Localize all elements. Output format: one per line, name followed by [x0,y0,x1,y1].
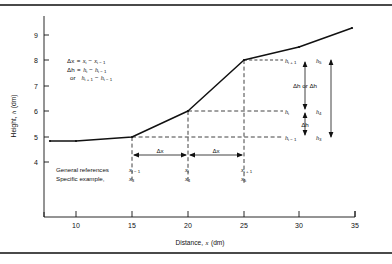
construction-lines-group [132,60,283,183]
y-tick-label-6: 6 [34,108,38,115]
h-im1-label: hi − 1 [285,134,297,142]
data-point [131,136,133,138]
delta-x-right-label: Δx [212,147,220,154]
x-tick-label-25: 25 [240,222,248,229]
y-tick-label-4: 4 [34,159,38,166]
specific-example-label: Specific example, [56,175,105,182]
x3-example: x3 [128,175,135,183]
delta-h-upper-arrow-top [303,61,308,67]
x-tick-label-35: 35 [351,222,359,229]
x-tick-label-10: 10 [72,222,80,229]
y-tick-label-7: 7 [34,83,38,90]
x5-example: x5 [240,175,247,183]
y-tick-label-9: 9 [34,32,38,39]
delta-x-right-arrow-start [189,153,195,158]
h-ip1-label: hi + 1 [285,57,297,65]
h5-arrow-top [329,59,334,65]
chart-svg: 10 15 20 25 30 35 4 5 6 7 8 9 Distance,x… [0,0,392,264]
reference-rows-group: General references Specific example, xi … [56,166,253,183]
delta-h-lower-label: Δh [301,121,309,128]
x-im1-reference: xi − 1 [128,166,141,174]
delta-x-left-arrow-start [133,153,139,158]
h4-label: h4 [316,108,322,116]
h5-label: h5 [316,57,322,65]
delta-h-upper-label: Δh or Δh [293,82,318,89]
y-tick-label-8: 8 [34,57,38,64]
delta-h-inner-dimensions-group: Δh or Δh Δh [293,61,318,136]
y-ticks-group: 4 5 6 7 8 9 [34,32,49,166]
delta-h-lower-arrow-bottom [303,130,308,136]
formula-line-2: Δh=hi−hi − 1 [67,66,107,74]
data-point [351,27,353,29]
general-references-label: General references [56,166,109,173]
data-point [243,59,245,61]
formula-annotation-block: Δx=xi−xi − 1 Δh=hi−hi − 1 orhi + 1−hi − … [67,57,113,82]
data-point [187,110,189,112]
x-tick-label-20: 20 [184,222,192,229]
data-point [49,140,51,142]
x-ip1-reference: xi + 1 [240,166,253,174]
delta-x-right-arrow-end [237,153,243,158]
h-i-label: hi [285,108,289,116]
axes-group [44,16,355,217]
delta-h-upper-arrow-bottom [303,104,308,110]
formula-line-1: Δx=xi−xi − 1 [67,57,106,65]
x-axis-title: Distance,x(dm) [176,239,225,247]
x-tick-label-15: 15 [128,222,136,229]
formula-line-3: orhi + 1−hi − 1 [70,74,113,82]
h3-label: h3 [316,134,322,142]
delta-x-left-arrow-end [181,153,187,158]
y-axis-title: Height,h(dm) [10,95,18,138]
figure-container: 10 15 20 25 30 35 4 5 6 7 8 9 Distance,x… [0,0,392,264]
data-point [298,46,300,48]
axis-titles-group: Distance,x(dm) Height,h(dm) [10,95,225,247]
x4-example: x4 [184,175,191,183]
h-level-labels-group: hi + 1 hi hi − 1 [285,57,297,142]
delta-h-lower-arrow-top [303,112,308,118]
x-tick-label-30: 30 [295,222,303,229]
x-ticks-group: 10 15 20 25 30 35 [44,211,359,229]
h-numbered-labels-group: h5 h4 h3 [316,57,333,142]
y-tick-label-5: 5 [34,134,38,141]
data-point [75,140,77,142]
h5-arrow-bottom [329,132,334,138]
delta-x-left-label: Δx [156,147,164,154]
